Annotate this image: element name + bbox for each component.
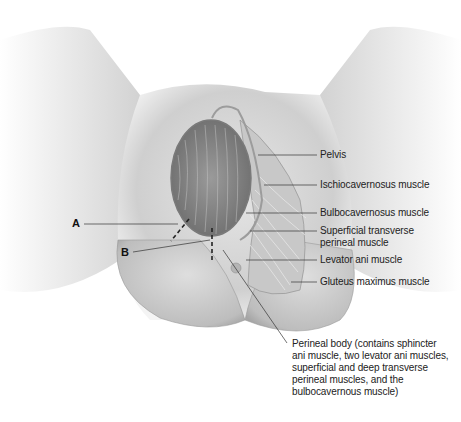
fetal-head [171,120,251,236]
label-pelvis: Pelvis [320,149,346,161]
label-superficial-transverse-2: perineal muscle [320,237,389,249]
label-levator-ani: Levator ani muscle [320,254,402,266]
perineal-body-line-5: bulbocavernous muscle) [292,386,448,398]
perineal-body-line-1: Perineal body (contains sphincter [292,338,448,350]
label-bulbocavernosus: Bulbocavernosus muscle [320,207,429,219]
label-ischiocavernosus: Ischiocavernosus muscle [320,179,429,191]
label-perineal-body: Perineal body (contains sphincter ani mu… [292,338,448,398]
perineal-body-line-2: ani muscle, two levator ani muscles, [292,350,448,362]
perineal-body-line-3: superficial and deep transverse [292,362,448,374]
label-superficial-transverse-1: Superficial transverse [320,225,414,237]
label-gluteus-maximus: Gluteus maximus muscle [320,276,430,288]
anus [231,263,241,273]
incision-a-label: A [72,217,80,229]
perineal-body-line-4: perineal muscles, and the [292,374,448,386]
incision-b-label: B [121,246,129,258]
